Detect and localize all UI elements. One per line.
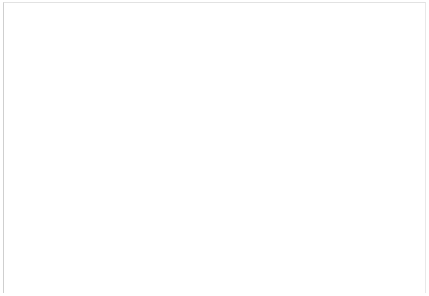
icon-row bbox=[48, 239, 388, 275]
age-row-55-64 bbox=[0, 171, 429, 207]
age-row-35-54 bbox=[0, 137, 429, 173]
overall-icon-row bbox=[34, 31, 394, 67]
icon-row bbox=[48, 205, 388, 241]
age-row-16-34 bbox=[0, 103, 429, 139]
icon-row bbox=[48, 103, 388, 139]
age-row-75-plus bbox=[0, 239, 429, 275]
icon-row bbox=[48, 137, 388, 173]
icon-row bbox=[48, 171, 388, 207]
age-row-65-74 bbox=[0, 205, 429, 241]
